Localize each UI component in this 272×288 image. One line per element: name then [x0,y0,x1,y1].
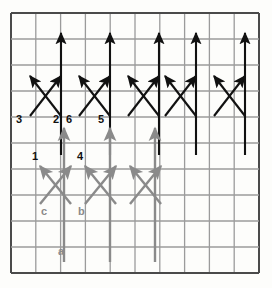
label-a: a [58,246,64,257]
label-1: 1 [32,151,38,162]
label-2: 2 [53,114,59,125]
label-4: 4 [77,151,83,162]
label-b: b [78,206,85,217]
label-5: 5 [98,114,104,125]
background [0,0,272,288]
label-3: 3 [16,114,22,125]
label-6: 6 [66,114,72,125]
label-c: c [41,206,47,217]
vector-grid-diagram [0,0,272,288]
figure-canvas: 3 2 6 5 1 4 c b a [0,0,272,288]
